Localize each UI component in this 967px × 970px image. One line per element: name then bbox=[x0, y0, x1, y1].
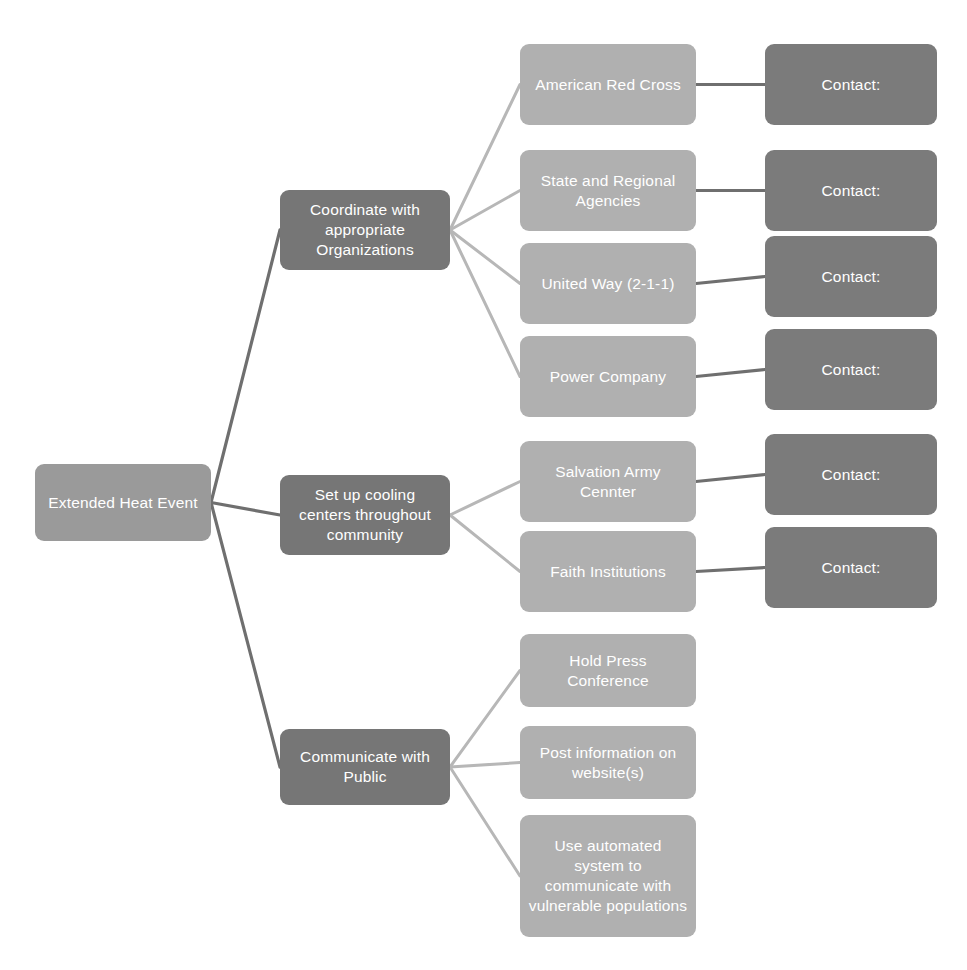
node-node-state-regional-agencies-label: State and Regional Agencies bbox=[528, 171, 688, 211]
node-contact-power-company[interactable]: Contact: bbox=[765, 329, 937, 410]
connector-branch-1-to-child-1 bbox=[450, 515, 520, 572]
node-contact-power-company-label: Contact: bbox=[822, 360, 881, 380]
connector-branch-0-to-child-2 bbox=[450, 230, 520, 284]
connector-root-to-branch-2 bbox=[211, 503, 280, 768]
connector-branch-2-to-child-1 bbox=[450, 763, 520, 768]
node-branch-coordinate[interactable]: Coordinate with appropriate Organization… bbox=[280, 190, 450, 270]
connector-child-1-0-to-contact bbox=[696, 475, 765, 482]
node-node-automated-system[interactable]: Use automated system to communicate with… bbox=[520, 815, 696, 937]
node-contact-american-red-cross[interactable]: Contact: bbox=[765, 44, 937, 125]
node-node-power-company[interactable]: Power Company bbox=[520, 336, 696, 417]
node-node-post-information-website-label: Post information on website(s) bbox=[528, 743, 688, 783]
node-contact-united-way[interactable]: Contact: bbox=[765, 236, 937, 317]
connector-child-0-3-to-contact bbox=[696, 370, 765, 377]
node-root-extended-heat-event-label: Extended Heat Event bbox=[48, 493, 197, 513]
node-node-salvation-army-center[interactable]: Salvation Army Cennter bbox=[520, 441, 696, 522]
node-node-faith-institutions-label: Faith Institutions bbox=[550, 562, 666, 582]
node-node-american-red-cross[interactable]: American Red Cross bbox=[520, 44, 696, 125]
node-node-american-red-cross-label: American Red Cross bbox=[535, 75, 681, 95]
connector-branch-1-to-child-0 bbox=[450, 482, 520, 516]
connector-child-0-2-to-contact bbox=[696, 277, 765, 284]
node-branch-cooling-centers-label: Set up cooling centers throughout commun… bbox=[288, 485, 442, 544]
node-contact-state-regional-agencies[interactable]: Contact: bbox=[765, 150, 937, 231]
connector-branch-0-to-child-1 bbox=[450, 191, 520, 231]
node-contact-american-red-cross-label: Contact: bbox=[822, 75, 881, 95]
flowchart-canvas: Extended Heat EventCoordinate with appro… bbox=[0, 0, 967, 970]
node-branch-communicate-public-label: Communicate with Public bbox=[288, 747, 442, 787]
node-node-united-way-label: United Way (2-1-1) bbox=[541, 274, 674, 294]
node-node-state-regional-agencies[interactable]: State and Regional Agencies bbox=[520, 150, 696, 231]
node-branch-cooling-centers[interactable]: Set up cooling centers throughout commun… bbox=[280, 475, 450, 555]
node-root-extended-heat-event[interactable]: Extended Heat Event bbox=[35, 464, 211, 541]
connector-branch-2-to-child-2 bbox=[450, 767, 520, 876]
node-contact-faith-institutions[interactable]: Contact: bbox=[765, 527, 937, 608]
node-node-power-company-label: Power Company bbox=[550, 367, 667, 387]
node-contact-faith-institutions-label: Contact: bbox=[822, 558, 881, 578]
connector-branch-2-to-child-0 bbox=[450, 671, 520, 768]
node-contact-salvation-army-center[interactable]: Contact: bbox=[765, 434, 937, 515]
connector-branch-0-to-child-3 bbox=[450, 230, 520, 377]
node-branch-communicate-public[interactable]: Communicate with Public bbox=[280, 729, 450, 805]
node-contact-united-way-label: Contact: bbox=[822, 267, 881, 287]
node-contact-salvation-army-center-label: Contact: bbox=[822, 465, 881, 485]
node-branch-coordinate-label: Coordinate with appropriate Organization… bbox=[288, 200, 442, 259]
node-contact-state-regional-agencies-label: Contact: bbox=[822, 181, 881, 201]
node-node-united-way[interactable]: United Way (2-1-1) bbox=[520, 243, 696, 324]
node-node-automated-system-label: Use automated system to communicate with… bbox=[528, 836, 688, 915]
connector-root-to-branch-0 bbox=[211, 230, 280, 503]
connector-branch-0-to-child-0 bbox=[450, 85, 520, 231]
node-node-post-information-website[interactable]: Post information on website(s) bbox=[520, 726, 696, 799]
node-node-faith-institutions[interactable]: Faith Institutions bbox=[520, 531, 696, 612]
connector-root-to-branch-1 bbox=[211, 503, 280, 516]
connector-child-1-1-to-contact bbox=[696, 568, 765, 572]
node-node-hold-press-conference[interactable]: Hold Press Conference bbox=[520, 634, 696, 707]
node-node-salvation-army-center-label: Salvation Army Cennter bbox=[528, 462, 688, 502]
node-node-hold-press-conference-label: Hold Press Conference bbox=[528, 651, 688, 691]
